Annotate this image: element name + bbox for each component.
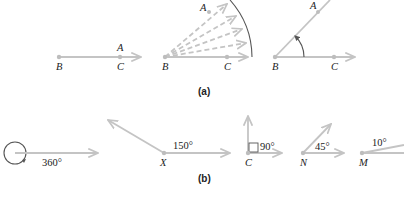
label-a: A	[116, 42, 124, 53]
angle-10: 10° M	[358, 137, 404, 168]
point-c	[225, 55, 229, 59]
label-c: C	[331, 61, 339, 72]
ray-upper-left	[108, 120, 164, 153]
point-c	[332, 55, 336, 59]
degree-label: 360°	[42, 157, 62, 168]
angle-diagram: A B C A B C A B	[0, 0, 404, 211]
figure-zero-angle: A B C	[56, 42, 141, 72]
vertex-point	[360, 151, 364, 155]
angle-360: 360°	[4, 142, 98, 168]
figure-angle-abc: A B C	[272, 0, 355, 72]
panel-b: 360° 150° X 90° C 45° N	[4, 116, 404, 184]
vertex-label: M	[358, 157, 369, 168]
label-b: B	[56, 61, 63, 72]
angle-arc	[295, 36, 304, 57]
caption-a: (a)	[198, 86, 210, 97]
degree-label: 10°	[372, 137, 387, 148]
point-a	[207, 10, 211, 14]
angle-45: 45° N	[299, 124, 344, 168]
dashed-ray-1	[165, 43, 246, 57]
vertex-label: C	[245, 157, 253, 168]
point-b	[57, 55, 61, 59]
degree-label: 150°	[173, 140, 193, 151]
degree-label: 90°	[260, 141, 275, 152]
vertex-point	[246, 151, 250, 155]
panel-a: A B C A B C A B	[56, 0, 355, 97]
angle-150: 150° X	[108, 120, 230, 168]
label-a: A	[199, 2, 207, 13]
degree-label: 45°	[315, 141, 330, 152]
dashed-ray-4	[165, 4, 227, 57]
vertex-point	[301, 151, 305, 155]
dashed-ray-2	[165, 29, 242, 57]
point-c	[118, 55, 122, 59]
caption-b: (b)	[198, 173, 211, 184]
point-b	[163, 55, 167, 59]
label-c: C	[224, 61, 232, 72]
label-c: C	[117, 61, 125, 72]
figure-rotating-ray: A B C	[162, 0, 252, 72]
label-a: A	[309, 0, 317, 11]
point-b	[273, 55, 277, 59]
vertex-point	[162, 151, 166, 155]
label-b: B	[272, 61, 279, 72]
angle-90: 90° C	[245, 116, 282, 168]
right-angle-marker	[249, 143, 258, 152]
vertex-label: X	[159, 157, 167, 168]
vertex-label: N	[299, 157, 308, 168]
label-b: B	[162, 61, 169, 72]
point-a	[316, 10, 320, 14]
